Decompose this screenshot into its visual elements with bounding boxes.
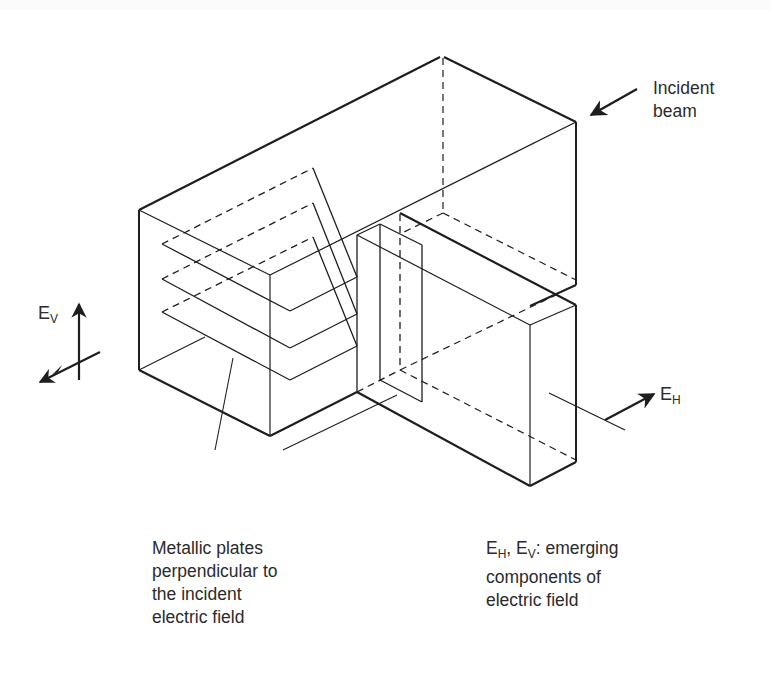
front-box — [357, 213, 576, 486]
eh-field-arrow — [549, 393, 654, 430]
ev-label: EV — [38, 303, 58, 326]
vertical-metallic-plates — [357, 214, 422, 402]
horizontal-metallic-plates — [162, 168, 357, 380]
eh-label: EH — [660, 384, 681, 407]
plates-caption: Metallic plates perpendicular to the inc… — [152, 537, 278, 629]
leader-plate-2 — [283, 395, 397, 450]
incident-beam-label: Incident beam — [653, 77, 714, 123]
components-caption-line1: EH, EV: emerging — [486, 537, 618, 566]
components-caption: EH, EV: emerging components of electric … — [486, 537, 618, 612]
incident-beam-arrow — [591, 89, 637, 115]
left-block — [139, 275, 357, 436]
leader-plate-1 — [215, 358, 233, 450]
